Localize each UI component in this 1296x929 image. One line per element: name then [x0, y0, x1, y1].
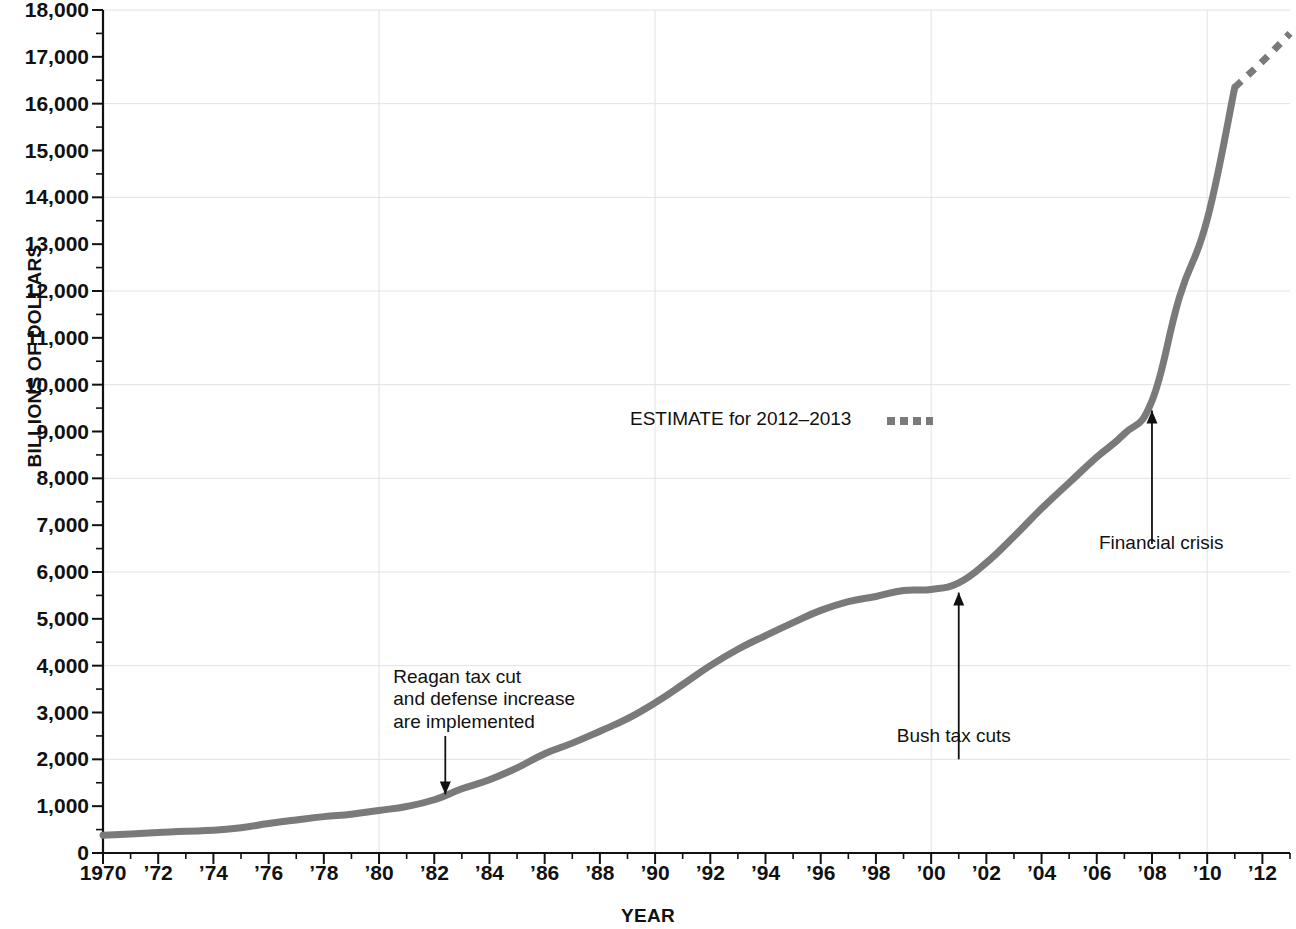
y-tick-label: 6,000 [0, 560, 89, 584]
x-tick-label: ’86 [530, 861, 559, 885]
y-tick-label: 7,000 [0, 513, 89, 537]
y-tick-label: 16,000 [0, 92, 89, 116]
x-tick-label: ’12 [1248, 861, 1277, 885]
x-tick-label: ’84 [475, 861, 504, 885]
annotation-financial-crisis: Financial crisis [1099, 532, 1224, 554]
series-actual-line [103, 87, 1235, 835]
x-axis-title: YEAR [0, 905, 1296, 927]
x-tick-label: ’04 [1027, 861, 1056, 885]
y-tick-label: 5,000 [0, 607, 89, 631]
x-tick-label: ’06 [1082, 861, 1111, 885]
y-axis-title: BILLIONS OF DOLLARS [24, 216, 46, 496]
x-tick-label: ’08 [1137, 861, 1166, 885]
x-tick-label: ’90 [640, 861, 669, 885]
y-tick-label: 13,000 [0, 232, 89, 256]
x-tick-label: ’74 [199, 861, 228, 885]
annotation-bush-tax-cuts: Bush tax cuts [897, 725, 1011, 747]
y-tick-label: 14,000 [0, 185, 89, 209]
y-tick-label: 3,000 [0, 701, 89, 725]
plot-area [0, 0, 1296, 929]
x-tick-label: ’94 [751, 861, 780, 885]
x-tick-label: 1970 [80, 861, 127, 885]
annotation-arrow-icon [1146, 410, 1157, 543]
x-tick-label: ’88 [585, 861, 614, 885]
y-tick-label: 10,000 [0, 373, 89, 397]
series-estimate-line [1235, 33, 1290, 87]
y-tick-label: 17,000 [0, 45, 89, 69]
x-tick-label: ’78 [309, 861, 338, 885]
x-tick-label: ’82 [420, 861, 449, 885]
x-tick-label: ’10 [1193, 861, 1222, 885]
y-tick-label: 8,000 [0, 466, 89, 490]
y-tick-label: 9,000 [0, 420, 89, 444]
y-tick-label: 1,000 [0, 794, 89, 818]
y-tick-label: 4,000 [0, 654, 89, 678]
x-tick-label: ’02 [972, 861, 1001, 885]
x-tick-label: ’00 [917, 861, 946, 885]
legend-dotted-swatch [885, 414, 965, 428]
x-tick-label: ’96 [806, 861, 835, 885]
y-tick-label: 11,000 [0, 326, 89, 350]
x-tick-label: ’92 [696, 861, 725, 885]
y-tick-label: 2,000 [0, 747, 89, 771]
y-tick-label: 18,000 [0, 0, 89, 22]
x-tick-label: ’72 [144, 861, 173, 885]
y-tick-label: 12,000 [0, 279, 89, 303]
x-tick-label: ’76 [254, 861, 283, 885]
x-tick-label: ’98 [861, 861, 890, 885]
debt-line-chart: BILLIONS OF DOLLARS YEAR 01,0002,0003,00… [0, 0, 1296, 929]
y-tick-label: 0 [0, 841, 89, 865]
y-tick-label: 15,000 [0, 139, 89, 163]
legend-estimate-label: ESTIMATE for 2012–2013 [630, 408, 851, 430]
annotation-reagan-tax-cut: Reagan tax cut and defense increase are … [393, 666, 575, 733]
x-tick-label: ’80 [364, 861, 393, 885]
annotation-arrow-icon [440, 736, 451, 795]
